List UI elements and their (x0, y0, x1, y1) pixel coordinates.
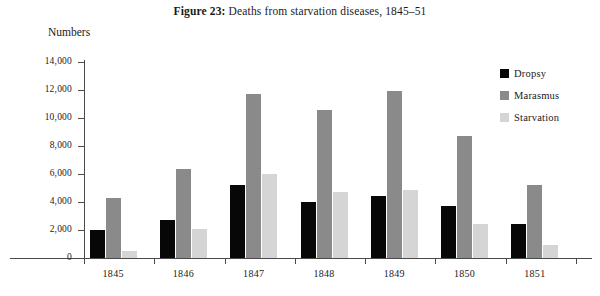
bar-starvation-1847 (262, 174, 277, 258)
bar-marasmus-1849 (387, 91, 402, 258)
bar-dropsy-1847 (230, 185, 245, 258)
x-axis-tick (365, 258, 366, 264)
bar-starvation-1846 (192, 229, 207, 258)
x-axis-line (10, 258, 592, 259)
bar-dropsy-1846 (160, 220, 175, 258)
x-axis-tick (576, 258, 577, 264)
chart-title: Figure 23: Deaths from starvation diseas… (0, 5, 600, 17)
legend-label: Starvation (514, 112, 559, 123)
y-axis-tick-label: 14,000 (4, 56, 72, 66)
y-axis-tick-label: 0 (4, 252, 72, 262)
bar-marasmus-1846 (176, 169, 191, 258)
legend-label: Dropsy (514, 68, 546, 79)
legend-item-starvation: Starvation (500, 106, 559, 128)
y-axis-tick-label: 2,000 (4, 224, 72, 234)
y-axis-tick-label: 10,000 (4, 112, 72, 122)
x-axis-tick (154, 258, 155, 264)
bar-marasmus-1851 (527, 185, 542, 259)
x-axis-tick (506, 258, 507, 264)
bar-starvation-1845 (122, 251, 137, 258)
x-axis-label-1851: 1851 (505, 268, 565, 279)
bar-marasmus-1847 (246, 94, 261, 258)
y-axis-tick-label: 6,000 (4, 168, 72, 178)
bar-starvation-1848 (333, 192, 348, 259)
bar-dropsy-1848 (301, 202, 316, 258)
y-axis-title: Numbers (48, 26, 90, 38)
x-axis-label-1847: 1847 (224, 268, 284, 279)
chart-legend: DropsyMarasmusStarvation (500, 62, 559, 128)
x-axis-label-1850: 1850 (435, 268, 495, 279)
bar-starvation-1850 (473, 224, 488, 258)
figure-caption-text: Deaths from starvation diseases, 1845–51 (229, 5, 427, 17)
legend-swatch-icon (500, 69, 509, 78)
legend-item-dropsy: Dropsy (500, 62, 559, 84)
bar-marasmus-1850 (457, 136, 472, 258)
x-axis-label-1846: 1846 (153, 268, 213, 279)
legend-swatch-icon (500, 91, 509, 100)
x-axis-label-1845: 1845 (83, 268, 143, 279)
x-axis-label-1848: 1848 (294, 268, 354, 279)
bar-marasmus-1845 (106, 198, 121, 258)
figure-container: Figure 23: Deaths from starvation diseas… (0, 0, 600, 296)
legend-swatch-icon (500, 113, 509, 122)
x-axis-tick (435, 258, 436, 264)
bar-dropsy-1849 (371, 196, 386, 258)
legend-label: Marasmus (514, 90, 559, 101)
x-axis-tick (84, 258, 85, 264)
x-axis-tick (295, 258, 296, 264)
figure-number-label: Figure 23: (173, 5, 225, 17)
x-axis-label-1849: 1849 (364, 268, 424, 279)
bar-dropsy-1850 (441, 206, 456, 258)
legend-item-marasmus: Marasmus (500, 84, 559, 106)
bar-starvation-1851 (543, 245, 558, 258)
y-axis-tick-label: 12,000 (4, 84, 72, 94)
x-axis-tick (225, 258, 226, 264)
bar-dropsy-1845 (90, 230, 105, 258)
bar-dropsy-1851 (511, 224, 526, 258)
bar-marasmus-1848 (317, 110, 332, 258)
y-axis-tick-label: 8,000 (4, 140, 72, 150)
y-axis-tick-label: 4,000 (4, 196, 72, 206)
bar-starvation-1849 (403, 190, 418, 258)
